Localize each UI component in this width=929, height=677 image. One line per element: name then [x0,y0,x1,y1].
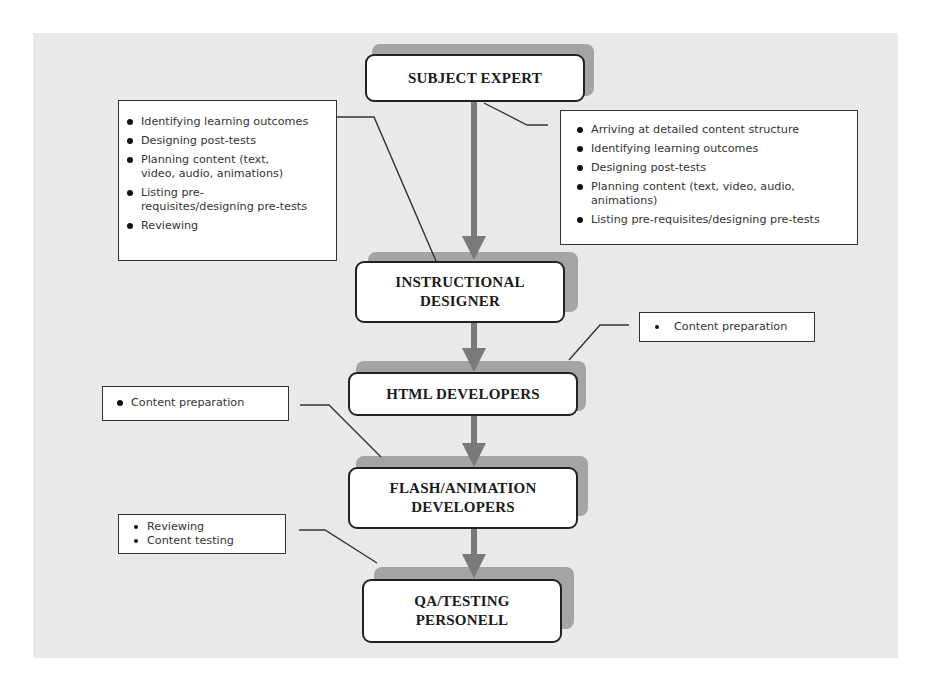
callout-instructional-designer-tasks: Identifying learning outcomes Designing … [118,100,337,261]
task-item: Identifying learning outcomes [575,142,851,156]
task-item: Reviewing [125,219,330,233]
node-label: INSTRUCTIONAL DESIGNER [385,273,535,311]
node-html-developers: HTML DEVELOPERS [348,372,578,416]
callout-flash-developers-tasks: Content preparation [102,386,289,421]
node-label: QA/TESTING PERSONELL [397,592,527,630]
task-item: Planning content (text, video, audio, an… [575,180,851,208]
callout-html-developers-tasks: Content preparation [639,312,815,342]
node-qa-testing-personell: QA/TESTING PERSONELL [362,579,562,643]
task-item: Designing post-tests [125,134,330,148]
task-item: Content preparation [115,396,282,410]
task-item: Listing pre-requisites/designing pre-tes… [125,186,330,214]
task-item: Listing pre-requisites/designing pre-tes… [575,213,851,227]
task-item: Identifying learning outcomes [125,115,330,129]
callout-qa-tasks: Reviewing Content testing [118,514,286,554]
task-item: Reviewing [131,520,279,534]
task-item: Designing post-tests [575,161,851,175]
task-item: Content testing [131,534,279,548]
callout-subject-expert-tasks: Arriving at detailed content structure I… [560,110,858,245]
task-item: Arriving at detailed content structure [575,123,851,137]
task-item: Content preparation [652,320,808,334]
node-instructional-designer: INSTRUCTIONAL DESIGNER [355,261,565,323]
node-label: HTML DEVELOPERS [386,385,539,404]
node-flash-animation-developers: FLASH/ANIMATION DEVELOPERS [348,467,578,529]
node-label: FLASH/ANIMATION DEVELOPERS [373,479,553,517]
task-item: Planning content (text, video, audio, an… [125,153,330,181]
node-label: SUBJECT EXPERT [408,69,542,88]
node-subject-expert: SUBJECT EXPERT [365,54,585,102]
